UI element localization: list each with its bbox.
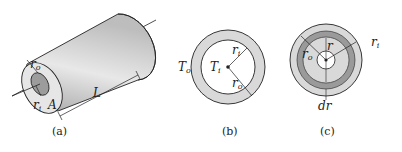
panel-c-annular-element: ro r ri dr (c)	[290, 24, 380, 138]
label-dr: dr	[318, 99, 333, 113]
figure-canvas: ro ri A L (a) Ti To ri ro (b) ro r	[0, 0, 402, 152]
caption-b: (b)	[222, 125, 238, 138]
caption-a: (a)	[52, 125, 67, 138]
caption-c: (c)	[320, 125, 335, 138]
label-To: To	[178, 60, 191, 75]
label-area-a: A	[47, 98, 57, 112]
panel-a-cylinder: ro ri A L (a)	[12, 14, 156, 138]
panel-b-cross-section: Ti To ri ro (b)	[178, 30, 265, 138]
label-length: L	[92, 86, 101, 100]
label-ri-c: ri	[371, 35, 380, 50]
